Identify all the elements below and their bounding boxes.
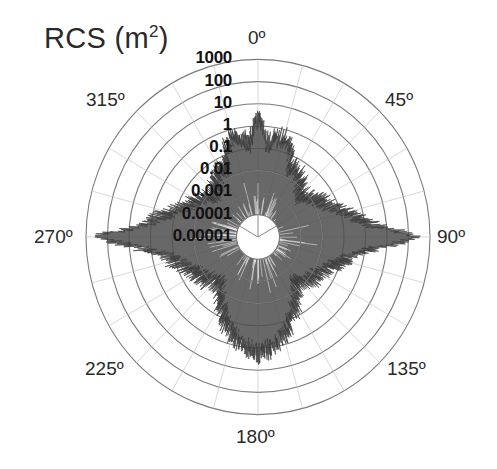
- radial-label-0.001: 0.001: [122, 181, 232, 201]
- radial-label-0.00001: 0.00001: [122, 226, 232, 246]
- angle-label-270: 270º: [34, 226, 73, 248]
- radial-label-0.0001: 0.0001: [122, 204, 232, 224]
- radial-label-1: 1: [122, 115, 232, 135]
- radial-label-10: 10: [122, 93, 232, 113]
- radial-label-1000: 1000: [122, 48, 232, 68]
- angle-label-180: 180º: [236, 426, 275, 448]
- angle-label-90: 90º: [437, 226, 465, 248]
- angle-label-45: 45º: [385, 89, 413, 111]
- title-superscript: 2: [149, 22, 159, 41]
- angle-label-315: 315º: [86, 89, 125, 111]
- radial-label-0.01: 0.01: [122, 159, 232, 179]
- radial-label-0.1: 0.1: [122, 137, 232, 157]
- angle-label-135: 135º: [387, 358, 426, 380]
- angle-label-0: 0º: [248, 27, 266, 49]
- angle-label-225: 225º: [85, 358, 124, 380]
- radial-label-100: 100: [122, 71, 232, 91]
- polar-plot: [0, 0, 497, 469]
